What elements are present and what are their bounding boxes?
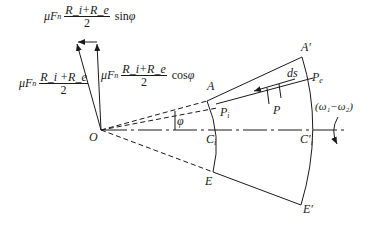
ray-to-E bbox=[101, 130, 213, 172]
label-ds: ds bbox=[287, 67, 298, 79]
label-phi: φ bbox=[177, 115, 184, 127]
label-Pe: Pe bbox=[312, 71, 323, 85]
label-P: P bbox=[273, 104, 280, 116]
label-E: E bbox=[205, 175, 212, 187]
label-Pi: Pi bbox=[220, 106, 230, 120]
label-omega: (ω₁−ω₂) bbox=[315, 101, 353, 112]
total-force-label: μFn R_i +R_e2 bbox=[19, 71, 91, 96]
ray-to-A bbox=[101, 101, 207, 130]
ds-arrow bbox=[254, 79, 295, 91]
label-Ci: Ci bbox=[206, 133, 216, 147]
label-Ci-prime: C′i bbox=[300, 133, 313, 147]
label-A-prime: A′ bbox=[301, 41, 311, 53]
segment-E-Eprime bbox=[213, 172, 301, 205]
segment-Pi-Pe bbox=[216, 78, 313, 104]
ray-to-Pi bbox=[101, 108, 217, 130]
friction-geometry-diagram bbox=[0, 0, 375, 225]
cos-component-label: μFn R_i+R_e2 cosφ bbox=[101, 63, 194, 88]
sin-component-label: μFn R_i+R_e2 sinφ bbox=[44, 4, 135, 29]
label-E-prime: E′ bbox=[303, 203, 313, 215]
element-side-2 bbox=[279, 84, 281, 98]
label-O: O bbox=[89, 131, 98, 143]
label-A: A bbox=[207, 80, 214, 92]
